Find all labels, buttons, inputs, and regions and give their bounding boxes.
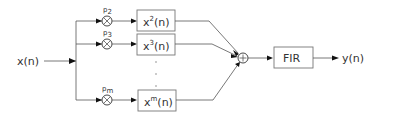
branch-p3: p3 x3(n) <box>76 29 237 56</box>
arrow-icon <box>96 42 102 47</box>
power-block-label: x2(n) <box>143 15 170 29</box>
power-block-label: xm(n) <box>144 95 173 109</box>
ellipsis-dot <box>155 85 157 87</box>
arrow-icon <box>69 58 76 64</box>
volterra-block-diagram: x(n) p2 x2(n) p3 x3(n) <box>0 0 395 119</box>
coef-label: p2 <box>103 6 112 16</box>
coef-label: p3 <box>103 29 112 39</box>
coef-label: pm <box>102 85 113 95</box>
power-block-label: x3(n) <box>143 39 170 53</box>
arrow-icon <box>267 56 273 61</box>
output-label: y(n) <box>342 52 364 65</box>
arrow-icon <box>96 98 102 103</box>
arrow-icon <box>131 42 137 47</box>
ellipsis-dot <box>155 61 157 63</box>
arrow-icon <box>235 62 240 67</box>
ellipsis-dot <box>155 73 157 75</box>
arrow-icon <box>96 19 102 24</box>
arrow-icon <box>131 98 137 103</box>
arrow-icon <box>332 56 339 61</box>
input-label: x(n) <box>17 55 39 68</box>
fir-label: FIR <box>283 52 301 65</box>
branch-pm: pm xm(n) <box>76 63 239 111</box>
arrow-icon <box>131 19 137 24</box>
